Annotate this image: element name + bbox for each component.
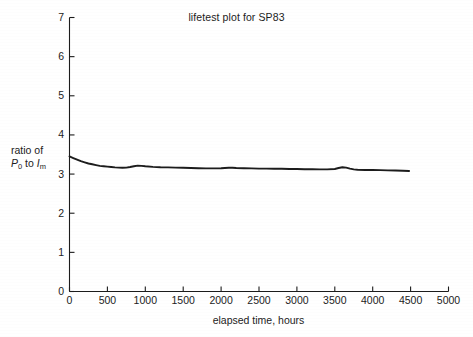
y-axis-title-connector: to [22,157,37,169]
y-axis-title-line1: ratio of [11,144,43,156]
chart-title: lifetest plot for SP83 [0,11,473,23]
y-tick-label: 2 [44,207,64,219]
x-axis-title: elapsed time, hours [69,314,448,326]
y-tick-label: 0 [44,285,64,297]
y-tick-label: 5 [44,89,64,101]
axes-group [70,18,449,292]
y-tick-label: 3 [44,168,64,180]
x-tick-label: 5000 [427,294,471,306]
plot-canvas [0,0,473,337]
y-tick-label: 7 [44,11,64,23]
chart-figure: lifetest plot for SP83 ratio of P0 to Im… [0,0,473,337]
data-series-group [70,156,410,170]
y-axis-symbol-p-subscript: 0 [18,162,22,171]
data-line-series-0 [70,156,410,170]
y-tick-label: 1 [44,246,64,258]
y-tick-label: 4 [44,128,64,140]
y-axis-symbol-p: P [11,157,18,169]
y-tick-label: 6 [44,50,64,62]
axis-ticks-group [70,18,449,292]
